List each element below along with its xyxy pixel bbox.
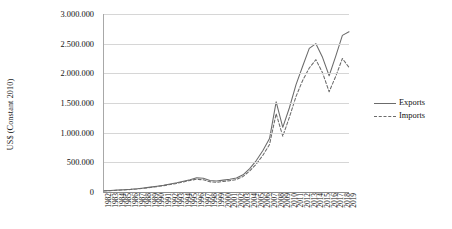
- gridline: [104, 103, 349, 104]
- legend-line-solid-icon: [374, 100, 396, 106]
- y-axis-title: US$ (Constant 2010): [0, 0, 20, 229]
- legend-line-dashed-icon: [374, 113, 396, 119]
- series-line-exports: [104, 32, 349, 191]
- plot-area: [103, 14, 349, 193]
- y-axis-tick-label: 500.000: [67, 158, 94, 167]
- y-axis-tick-label: 3.000.000: [61, 10, 95, 19]
- gridline: [104, 44, 349, 45]
- y-axis-tick-label: 0: [90, 188, 94, 197]
- gridline: [104, 162, 349, 163]
- legend-label-imports: Imports: [399, 111, 425, 120]
- x-axis-tick-label: 2019: [350, 193, 357, 208]
- y-axis-tick-label: 1.500.000: [61, 99, 95, 108]
- x-axis-tick-labels: 1982198319841985198619871988198919901991…: [103, 193, 348, 229]
- y-axis-tick-label: 2.000.000: [61, 69, 95, 78]
- chart-legend: Exports Imports: [374, 96, 452, 122]
- y-axis-tick-label: 2.500.000: [61, 39, 95, 48]
- gridline: [104, 73, 349, 74]
- y-axis-tick-labels: 0500.0001.000.0001.500.0002.000.0002.500…: [26, 8, 98, 198]
- series-line-imports: [104, 59, 349, 191]
- gridline: [104, 133, 349, 134]
- legend-label-exports: Exports: [399, 98, 425, 107]
- line-chart: US$ (Constant 2010) 0500.0001.000.0001.5…: [0, 0, 452, 229]
- legend-item-imports[interactable]: Imports: [374, 109, 452, 122]
- y-axis-tick-label: 1.000.000: [61, 128, 95, 137]
- gridline: [104, 14, 349, 15]
- legend-item-exports[interactable]: Exports: [374, 96, 452, 109]
